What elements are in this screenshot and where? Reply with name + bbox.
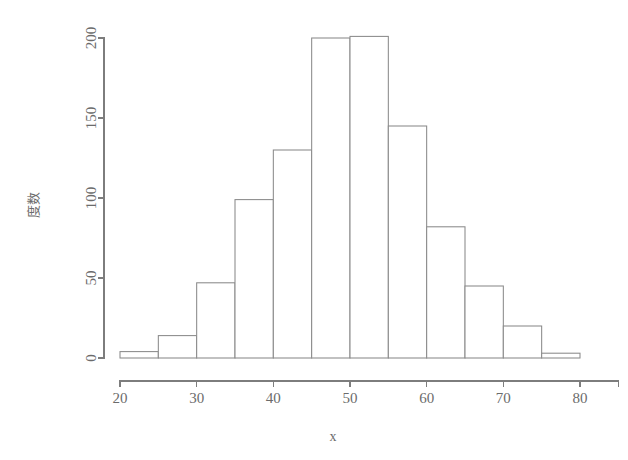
histogram-bar [350,36,388,358]
x-tick-label: 70 [496,390,511,406]
x-tick-label: 20 [113,390,128,406]
y-tick-label: 150 [83,107,99,130]
x-tick-label: 60 [419,390,434,406]
histogram-bar [542,353,580,358]
histogram-bar [197,283,235,358]
y-tick-label: 100 [83,187,99,210]
x-tick-label: 40 [266,390,281,406]
x-tick-label: 50 [343,390,358,406]
histogram-bar [388,126,426,358]
y-tick-label: 0 [83,354,99,362]
histogram-bar [235,200,273,358]
histogram-bar [503,326,541,358]
histogram-bar [312,38,350,358]
histogram-bar [120,352,158,358]
x-tick-label: 80 [573,390,588,406]
histogram-bar [273,150,311,358]
histogram-figure: 20304050607080 050100150200 x 度数 [0,0,628,460]
histogram-plot: 20304050607080 050100150200 x 度数 [0,0,628,460]
histogram-bar [427,227,465,358]
x-tick-label: 30 [189,390,204,406]
y-tick-label: 50 [83,271,99,286]
histogram-bar [158,336,196,358]
histogram-bar [465,286,503,358]
y-tick-label: 200 [83,27,99,50]
y-axis-title: 度数 [26,192,41,218]
x-axis-title: x [330,429,337,444]
